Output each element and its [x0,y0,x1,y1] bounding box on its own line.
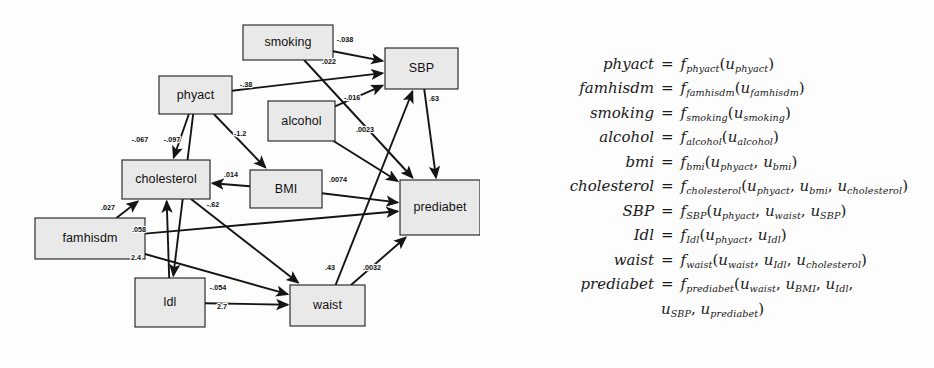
equation-argument: uBMI [785,275,816,293]
edge-weight-label: 2.4 [131,253,141,262]
argument-subscript: phyact [757,185,790,196]
equation-argument: uwaist [718,251,754,269]
argument-separator: , [849,275,854,293]
argument-separator: , [790,177,800,195]
edge-weight-label: .0074 [329,175,347,184]
argument-subscript: phyact [720,161,753,172]
graph-node-cholesterol[interactable]: cholesterol [122,160,210,199]
equation-rhs: ffamhisdm(ufamhisdm) [681,79,805,97]
argument-subscript: prediabet [710,308,758,319]
argument-base: u [701,300,711,318]
equation-argument: uprediabet [701,300,759,318]
structural-equations-panel: phyact=fphyact(uphyact)famhisdm=ffamhisd… [478,0,934,368]
graph-edge [214,114,265,168]
graph-edge [351,238,406,286]
edge-weight-label: -.38 [240,80,252,89]
equals-sign: = [654,275,681,293]
equation-lhs: smoking [504,104,654,122]
equation-argument: uSBP [661,300,691,318]
close-paren: ) [799,79,805,97]
causal-graph-svg: smokingSBPphyactalcoholcholesterolBMIpre… [0,0,480,368]
edge-weight-label: -.016 [344,93,360,102]
graph-edge [191,199,298,283]
equation-argument: uwaist [740,275,776,293]
graph-node-alcohol[interactable]: alcohol [268,101,335,141]
argument-base: u [765,202,775,220]
function-subscript: phyact [686,63,719,74]
equals-sign: = [654,79,681,97]
equation-lhs: alcohol [504,128,654,146]
function-subscript: famhisdm [686,87,735,98]
equation-argument: uphyact [725,55,768,73]
node-label: BMI [275,182,298,196]
edge-weight-label: -.067 [132,135,148,144]
argument-base: u [764,251,774,269]
argument-separator: , [787,251,797,269]
graph-node-smoking[interactable]: smoking [243,25,333,60]
equation-argument: uIdl [758,226,781,244]
equation-row: SBP=fSBP(uphyact, uwaist, uSBP) [504,202,908,220]
argument-separator: , [801,202,811,220]
edge-weight-label: .022 [322,57,336,66]
argument-base: u [763,153,773,171]
equals-sign: = [654,153,681,171]
node-label: waist [312,298,342,312]
argument-base: u [810,202,820,220]
argument-separator: , [776,275,786,293]
close-paren: ) [840,202,846,220]
argument-subscript: waist [750,283,776,294]
argument-separator: , [754,251,764,269]
argument-base: u [837,177,847,195]
equation-argument: ualcohol [728,128,773,146]
edge-weight-label: .63 [429,94,439,103]
argument-separator: , [816,275,826,293]
equals-sign: = [654,226,681,244]
equation-argument: uphyact [747,177,790,195]
argument-separator: , [754,153,764,171]
argument-subscript: SBP [820,210,840,221]
argument-subscript: Idl [768,234,781,245]
edge-weight-label: -.62 [207,200,219,209]
node-label: SBP [409,61,434,75]
argument-base: u [712,202,722,220]
equation-rhs: fwaist(uwaist, uIdl, ucholesterol) [681,251,867,269]
graph-edge [333,51,383,61]
argument-base: u [728,128,738,146]
argument-base: u [826,275,836,293]
argument-separator: , [755,202,765,220]
equation-lhs: phyact [504,55,654,73]
causal-graph-panel: smokingSBPphyactalcoholcholesterolBMIpre… [0,0,480,368]
argument-subscript: Idl [835,283,848,294]
equation-argument: ubmi [763,153,791,171]
argument-subscript: cholesterol [806,259,861,270]
equation-row: prediabet=fprediabet(uwaist, uBMI, uIdl, [504,275,908,293]
equation-row-continuation: uSBP, uprediabet) [504,300,908,318]
equation-row: alcohol=falcohol(ualcohol) [504,128,908,146]
graph-node-prediabet[interactable]: prediabet [400,180,480,235]
graph-node-waist[interactable]: waist [290,285,365,326]
equation-rhs: falcohol(ualcohol) [681,128,779,146]
argument-base: u [747,177,757,195]
edge-weight-label: .014 [224,170,238,179]
graph-node-ldl[interactable]: ldl [135,278,205,327]
equation-row: waist=fwaist(uwaist, uIdl, ucholesterol) [504,251,908,269]
close-paren: ) [861,251,867,269]
graph-node-BMI[interactable]: BMI [250,170,322,208]
function-subscript: alcohol [686,136,722,147]
equation-rhs: fphyact(uphyact) [681,55,775,73]
equation-row: famhisdm=ffamhisdm(ufamhisdm) [504,79,908,97]
function-subscript: SBP [686,210,706,221]
equation-argument: uphyact [712,202,755,220]
graph-node-phyact[interactable]: phyact [159,76,232,114]
graph-node-SBP[interactable]: SBP [385,48,458,89]
graph-edge [167,202,170,279]
node-label: cholesterol [135,172,197,186]
graph-edge [116,202,137,219]
equation-row: cholesterol=fcholesterol(uphyact, ubmi, … [504,177,908,195]
close-paren: ) [785,104,791,122]
argument-base: u [725,55,735,73]
equation-argument: ufamhisdm [741,79,799,97]
edge-weight-label: .0023 [356,125,374,134]
equation-rhs: fSBP(uphyact, uwaist, uSBP) [681,202,847,220]
graph-node-famhisdm[interactable]: famhisdm [35,218,145,259]
